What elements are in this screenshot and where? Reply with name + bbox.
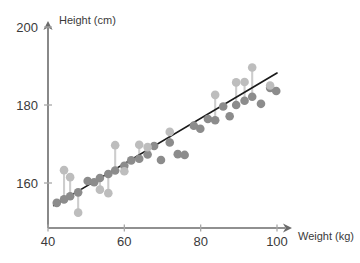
fitted-point — [204, 115, 213, 124]
observed-point — [96, 185, 105, 194]
observed-point — [165, 128, 174, 137]
fitted-point — [211, 116, 220, 125]
y-axis-tick-label: 180 — [16, 98, 38, 113]
y-axis-title: Height (cm) — [59, 14, 116, 26]
fitted-point — [219, 102, 228, 111]
fitted-point — [225, 112, 234, 121]
observed-point — [211, 91, 220, 100]
observed-point — [104, 189, 113, 198]
fitted-point — [111, 166, 120, 175]
fitted-point — [74, 188, 83, 197]
fitted-point — [66, 192, 75, 201]
observed-point — [120, 167, 129, 176]
x-axis-tick-label: 80 — [193, 234, 207, 249]
axes-group — [43, 21, 292, 233]
fitted-point — [165, 138, 174, 147]
y-axis-tick-label: 200 — [16, 20, 38, 35]
fitted-point — [157, 156, 166, 165]
observed-point — [248, 63, 257, 72]
y-axis-tick-label: 160 — [16, 176, 38, 191]
observed-point — [135, 140, 144, 149]
observed-point — [74, 208, 83, 217]
fitted-point — [248, 93, 257, 102]
observed-point — [266, 81, 275, 90]
axis-labels-group: 160180200406080100Height (cm)Weight (kg) — [16, 14, 354, 249]
plot-canvas: 160180200406080100Height (cm)Weight (kg) — [0, 0, 360, 263]
observed-point — [143, 143, 152, 152]
fitted-point — [127, 156, 136, 165]
observed-point — [60, 166, 69, 175]
fitted-point — [240, 96, 249, 105]
observed-point — [240, 78, 249, 87]
observed-point — [111, 141, 120, 150]
observed-point — [66, 173, 75, 182]
fitted-points-group — [52, 84, 280, 208]
regression-line-group — [54, 73, 277, 206]
x-axis-tick-label: 40 — [41, 234, 55, 249]
x-axis-tick-label: 100 — [266, 234, 288, 249]
fitted-point — [135, 155, 144, 164]
x-axis-tick-label: 60 — [117, 234, 131, 249]
fitted-point — [257, 100, 266, 109]
scatter-chart: 160180200406080100Height (cm)Weight (kg) — [0, 0, 360, 263]
regression-line — [54, 73, 277, 206]
fitted-point — [180, 151, 189, 160]
fitted-point — [196, 124, 205, 133]
x-axis-title: Weight (kg) — [298, 230, 354, 242]
fitted-point — [232, 101, 241, 110]
fitted-point — [96, 174, 105, 183]
observed-point — [232, 78, 241, 87]
fitted-point — [143, 150, 152, 159]
